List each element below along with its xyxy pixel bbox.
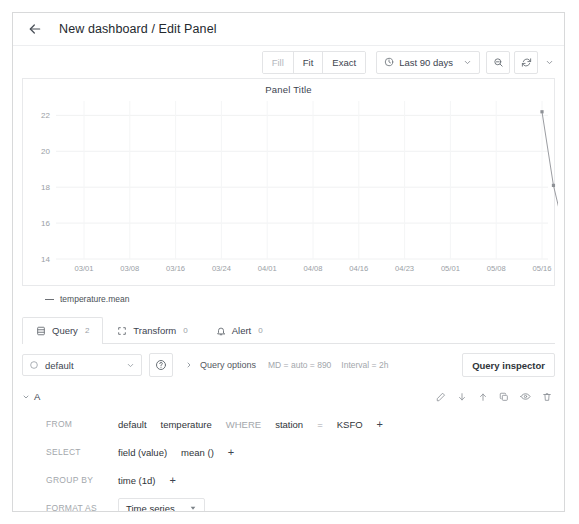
panel-toolbar: Fill Fit Exact Last 90 days bbox=[13, 46, 564, 78]
datasource-name: default bbox=[45, 360, 74, 371]
query-format-row: FORMAT AS Time series bbox=[22, 497, 555, 512]
time-series-chart[interactable]: 141618202203/0103/0803/1603/2404/0104/08… bbox=[23, 79, 554, 285]
svg-text:05/01: 05/01 bbox=[441, 264, 460, 273]
svg-text:05/16: 05/16 bbox=[532, 264, 551, 273]
copy-icon[interactable] bbox=[499, 392, 509, 402]
svg-text:05/08: 05/08 bbox=[487, 264, 506, 273]
chevron-down-icon bbox=[189, 504, 197, 512]
where-label: WHERE bbox=[226, 419, 261, 430]
format-as-label: FORMAT AS bbox=[46, 503, 118, 512]
query-from-row: FROM default temperature WHERE station =… bbox=[22, 413, 555, 435]
svg-text:18: 18 bbox=[41, 183, 50, 192]
svg-text:03/08: 03/08 bbox=[120, 264, 139, 273]
format-as-value: Time series bbox=[126, 503, 175, 513]
refresh-button[interactable] bbox=[514, 51, 538, 74]
svg-text:20: 20 bbox=[41, 147, 50, 156]
tab-transform-label: Transform bbox=[133, 325, 176, 336]
query-row-header: A bbox=[22, 386, 555, 407]
chart-svg: 141618202203/0103/0803/1603/2404/0104/08… bbox=[23, 79, 558, 285]
format-as-select[interactable]: Time series bbox=[118, 498, 205, 513]
time-range-picker[interactable]: Last 90 days bbox=[376, 51, 480, 74]
tab-query[interactable]: Query 2 bbox=[22, 317, 103, 343]
group-by-label: GROUP BY bbox=[46, 475, 118, 485]
clock-icon bbox=[384, 57, 394, 67]
svg-text:14: 14 bbox=[41, 255, 50, 264]
chevron-down-icon bbox=[463, 58, 472, 67]
arrow-down-icon[interactable] bbox=[457, 392, 467, 402]
tab-transform-count: 0 bbox=[183, 326, 187, 335]
tab-alert-label: Alert bbox=[232, 325, 252, 336]
page-header: New dashboard / Edit Panel bbox=[13, 13, 564, 46]
tab-query-label: Query bbox=[52, 325, 78, 336]
svg-text:03/24: 03/24 bbox=[212, 264, 231, 273]
svg-text:16: 16 bbox=[41, 219, 50, 228]
trash-icon[interactable] bbox=[542, 392, 552, 402]
from-measurement[interactable]: temperature bbox=[161, 419, 212, 430]
exact-button[interactable]: Exact bbox=[323, 52, 365, 73]
add-select-button[interactable]: + bbox=[228, 447, 234, 458]
query-editor: default bbox=[22, 344, 555, 512]
transform-icon bbox=[117, 326, 127, 336]
svg-text:03/01: 03/01 bbox=[74, 264, 93, 273]
datasource-icon bbox=[29, 360, 39, 370]
chevron-down-icon bbox=[126, 361, 135, 370]
svg-text:22: 22 bbox=[41, 111, 50, 120]
fit-button[interactable]: Fit bbox=[294, 52, 324, 73]
query-options-toggle[interactable]: Query options MD = auto = 890 Interval =… bbox=[185, 360, 388, 370]
arrow-up-icon[interactable] bbox=[478, 392, 488, 402]
query-options-label: Query options bbox=[200, 360, 256, 370]
query-inspector-button[interactable]: Query inspector bbox=[462, 353, 555, 377]
query-options-max-data-points: MD = auto = 890 bbox=[268, 360, 331, 370]
database-icon bbox=[36, 326, 46, 336]
from-policy[interactable]: default bbox=[118, 419, 147, 430]
zoom-out-icon bbox=[493, 57, 504, 68]
svg-text:04/16: 04/16 bbox=[349, 264, 368, 273]
chevron-down-icon[interactable] bbox=[22, 393, 34, 401]
refresh-interval-dropdown[interactable] bbox=[542, 52, 556, 73]
edit-panel-window: New dashboard / Edit Panel Fill Fit Exac… bbox=[12, 12, 565, 512]
chart-legend[interactable]: temperature.mean bbox=[45, 294, 129, 304]
tab-alert[interactable]: Alert 0 bbox=[202, 317, 277, 343]
panel-size-button-group: Fill Fit Exact bbox=[262, 51, 366, 74]
chevron-right-icon bbox=[185, 361, 193, 369]
query-ref-id: A bbox=[34, 391, 40, 402]
select-aggregate[interactable]: mean () bbox=[181, 447, 214, 458]
fill-button[interactable]: Fill bbox=[263, 52, 294, 73]
query-select-row: SELECT field (value) mean () + bbox=[22, 441, 555, 463]
datasource-picker[interactable]: default bbox=[22, 354, 142, 376]
tab-transform[interactable]: Transform 0 bbox=[103, 317, 201, 343]
zoom-out-button[interactable] bbox=[486, 51, 510, 74]
svg-text:04/23: 04/23 bbox=[395, 264, 414, 273]
pencil-icon[interactable] bbox=[436, 392, 446, 402]
select-label: SELECT bbox=[46, 447, 118, 457]
select-field[interactable]: field (value) bbox=[118, 447, 167, 458]
where-operator[interactable]: = bbox=[317, 419, 323, 430]
datasource-row: default bbox=[22, 353, 555, 377]
page-title: New dashboard / Edit Panel bbox=[59, 22, 217, 36]
where-tag-key[interactable]: station bbox=[275, 419, 303, 430]
time-range-label: Last 90 days bbox=[399, 57, 453, 68]
svg-text:04/01: 04/01 bbox=[258, 264, 277, 273]
datasource-help-button[interactable] bbox=[149, 353, 173, 377]
legend-label: temperature.mean bbox=[60, 294, 129, 304]
query-row-actions bbox=[436, 391, 555, 402]
screenshot-root: New dashboard / Edit Panel Fill Fit Exac… bbox=[0, 0, 579, 524]
where-tag-value[interactable]: KSFO bbox=[337, 419, 363, 430]
query-options-interval: Interval = 2h bbox=[341, 360, 388, 370]
help-circle-icon bbox=[155, 359, 167, 371]
add-group-by-button[interactable]: + bbox=[169, 475, 175, 486]
add-where-button[interactable]: + bbox=[377, 419, 383, 430]
query-groupby-row: GROUP BY time (1d) + bbox=[22, 469, 555, 491]
group-by-time[interactable]: time (1d) bbox=[118, 475, 155, 486]
visualization-panel: Panel Title 141618202203/0103/0803/1603/… bbox=[22, 78, 555, 286]
tab-alert-count: 0 bbox=[258, 326, 262, 335]
editor-tabs: Query 2 Transform 0 bbox=[22, 317, 555, 344]
from-label: FROM bbox=[46, 419, 118, 429]
svg-text:04/08: 04/08 bbox=[303, 264, 322, 273]
bell-icon bbox=[216, 326, 226, 336]
refresh-icon bbox=[521, 57, 532, 68]
legend-color-swatch bbox=[45, 299, 54, 300]
eye-icon[interactable] bbox=[520, 391, 531, 402]
tab-query-count: 2 bbox=[85, 326, 89, 335]
arrow-left-icon[interactable] bbox=[27, 21, 43, 37]
